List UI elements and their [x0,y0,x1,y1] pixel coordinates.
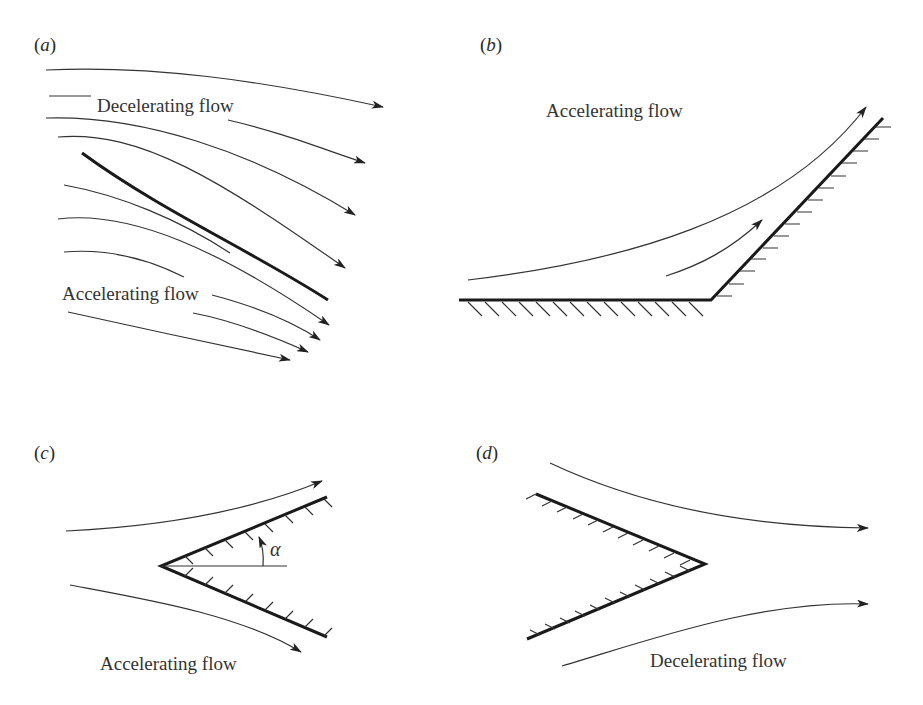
streamline [46,118,355,215]
streamline [58,218,329,325]
flow-label-accelerating-a: Accelerating flow [62,283,199,305]
wall-hatching [468,127,891,316]
panel-label-c: (c) [34,442,55,464]
streamline [666,220,762,276]
streamline [212,295,320,340]
flow-label-decelerating-a: Decelerating flow [97,95,234,117]
alpha-symbol: α [270,538,281,561]
streamline [66,481,322,531]
streamline [64,251,184,277]
wall-hatching [185,499,332,636]
panel-d-diagram [526,463,868,666]
flow-label-accelerating-b: Accelerating flow [546,100,683,122]
streamline [193,313,308,352]
wedge-wall [527,494,705,639]
inclined-plate [82,153,328,300]
angle-arc [259,537,263,566]
panel-c-diagram [66,481,332,652]
streamline [70,585,301,652]
panel-label-a: (a) [34,34,56,56]
streamline [468,107,866,280]
streamline [228,120,365,163]
panel-label-b: (b) [480,34,502,56]
panel-b-diagram [459,107,891,316]
flow-label-accelerating-c: Accelerating flow [100,653,237,675]
wall-hatching [526,494,690,635]
streamline [68,312,290,360]
panel-label-d: (d) [476,442,498,464]
flow-label-decelerating-d: Decelerating flow [650,650,787,672]
streamline [58,136,345,268]
